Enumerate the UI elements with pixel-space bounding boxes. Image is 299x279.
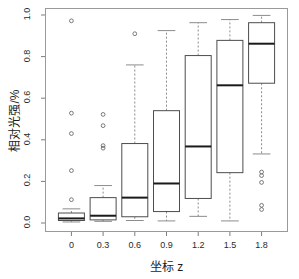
y-tick-label: 0.2 [22, 168, 32, 192]
box-group [122, 32, 148, 221]
outlier-point [70, 169, 74, 173]
outlier-point [101, 113, 105, 117]
y-tick-label: 1.0 [22, 2, 32, 26]
box-group [58, 19, 84, 222]
box-group [154, 31, 180, 221]
outlier-point [133, 32, 137, 36]
outlier-point [260, 203, 264, 207]
outlier-point [70, 198, 74, 202]
box-body [122, 144, 148, 217]
x-tick-label: 1.2 [192, 240, 205, 250]
outlier-point [101, 146, 105, 150]
outlier-point [101, 124, 105, 128]
boxplot-canvas [0, 0, 299, 279]
y-tick-label: 0.4 [22, 127, 32, 151]
outlier-point [260, 208, 264, 212]
y-tick-label: 0.0 [22, 210, 32, 234]
outlier-point [260, 181, 264, 185]
boxplot-figure: 相对光强/% 坐标 z 00.30.60.91.21.51.8 0.00.20.… [0, 0, 299, 279]
x-tick-label: 0 [69, 240, 74, 250]
box-group [90, 113, 116, 222]
y-tick-label: 0.8 [22, 44, 32, 68]
box-body [249, 23, 275, 84]
box-body [185, 56, 211, 199]
box-group [185, 23, 211, 217]
x-tick-label: 1.8 [255, 240, 268, 250]
x-tick-label: 0.3 [97, 240, 110, 250]
outlier-point [70, 132, 74, 136]
box-body [154, 111, 180, 212]
box-body [217, 40, 243, 172]
x-tick-label: 1.5 [224, 240, 237, 250]
outlier-point [70, 19, 74, 23]
x-tick-label: 0.6 [129, 240, 142, 250]
x-axis-title: 坐标 z [45, 257, 288, 274]
y-axis-title: 相对光强/% [5, 56, 22, 186]
box-group [249, 15, 275, 211]
box-group [217, 20, 243, 221]
x-tick-label: 0.9 [160, 240, 173, 250]
y-tick-label: 0.6 [22, 85, 32, 109]
outlier-point [70, 111, 74, 115]
